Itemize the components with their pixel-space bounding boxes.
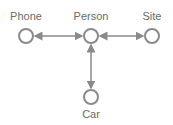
node-site[interactable] [145,29,159,43]
node-label-person: Person [74,10,109,22]
node-label-car: Car [82,108,100,120]
node-label-site: Site [143,10,162,22]
node-label-phone: Phone [10,10,42,22]
node-car[interactable] [84,90,98,104]
node-phone[interactable] [19,29,33,43]
node-person[interactable] [84,29,98,43]
